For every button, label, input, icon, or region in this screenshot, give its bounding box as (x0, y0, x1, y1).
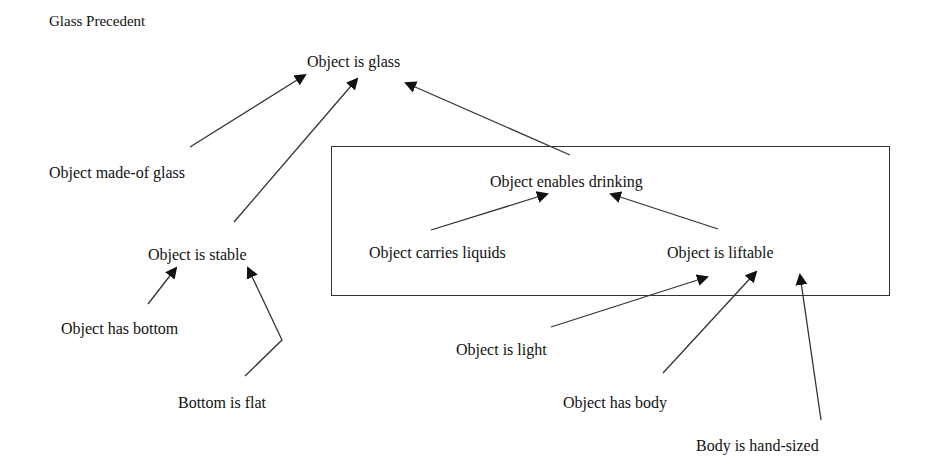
edge-enables-drinking-to-is-glass (406, 83, 570, 155)
edge-has-bottom-to-is-stable (148, 268, 176, 304)
drinking-group-box (331, 146, 890, 296)
node-object-is-light: Object is light (456, 340, 547, 359)
diagram-title: Glass Precedent (49, 12, 145, 30)
node-body-is-hand-sized: Body is hand-sized (696, 436, 819, 455)
node-object-made-of-glass: Object made-of glass (49, 163, 185, 182)
node-object-is-liftable: Object is liftable (667, 243, 774, 262)
node-object-carries-liquids: Object carries liquids (369, 243, 506, 262)
node-object-is-glass: Object is glass (307, 52, 400, 71)
node-object-is-stable: Object is stable (148, 245, 247, 264)
edge-made-of-glass-to-is-glass (190, 75, 305, 147)
diagram-canvas: Glass Precedent (0, 0, 933, 464)
node-bottom-is-flat: Bottom is flat (178, 393, 266, 412)
edge-hand-sized-to-is-liftable (800, 275, 821, 420)
node-object-has-bottom: Object has bottom (61, 319, 178, 338)
node-object-has-body: Object has body (563, 393, 667, 412)
node-object-enables-drinking: Object enables drinking (490, 172, 643, 191)
edge-bottom-is-flat-to-is-stable (245, 268, 282, 376)
